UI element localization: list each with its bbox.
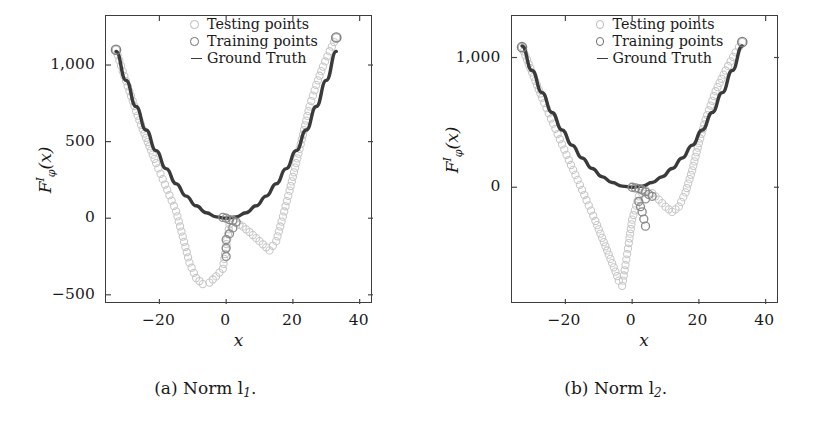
x-tick-label: 20: [687, 311, 707, 329]
y-axis-label-superscript: I: [441, 157, 454, 161]
caption-a-text: (a) Norm l: [154, 378, 243, 398]
testing-points-series: [518, 38, 745, 289]
caption-a-subscript: 1: [243, 386, 251, 400]
y-axis-label-argument: (x): [35, 147, 55, 170]
legend-label-training: Training points: [612, 32, 724, 51]
y-axis-label-argument: (x): [441, 127, 461, 150]
panel-a-norm-l1: 1,000 500 0 −500 −20 0 20 40 x FIφ(x) Te…: [0, 0, 411, 422]
y-axis-label-base: F: [35, 182, 55, 194]
caption-a: (a) Norm l1.: [0, 378, 411, 400]
legend-label-ground-truth: Ground Truth: [612, 49, 713, 68]
testing-point-marker-icon: [596, 20, 612, 29]
legend-label-training: Training points: [206, 32, 318, 51]
caption-b-period: .: [662, 378, 667, 398]
x-tick-label: 20: [282, 311, 302, 329]
legend-label-testing: Testing points: [206, 15, 309, 34]
training-point-marker-icon: [596, 37, 612, 46]
y-axis-label-subscript: φ: [45, 170, 58, 178]
y-axis-label-base: F: [441, 162, 461, 174]
testing-point-marker-icon: [190, 20, 206, 29]
testing-points-series: [112, 34, 339, 288]
legend-item-testing-points: Testing points: [596, 16, 724, 33]
legend-item-ground-truth: Ground Truth: [190, 50, 318, 67]
legend-item-training-points: Training points: [596, 33, 724, 50]
x-axis-label: x: [639, 330, 649, 350]
legend-item-ground-truth: Ground Truth: [596, 50, 724, 67]
y-axis-label-superscript: I: [34, 177, 47, 181]
x-tick-label: 40: [754, 311, 774, 329]
legend-label-ground-truth: Ground Truth: [206, 49, 307, 68]
panel-b-norm-l2: 1,000 0 −20 0 20 40 x FIφ(x) Testing poi…: [411, 0, 821, 422]
figure-two-panel-plots: 1,000 500 0 −500 −20 0 20 40 x FIφ(x) Te…: [0, 0, 821, 422]
ground-truth-curve: [116, 51, 336, 218]
legend-item-testing-points: Testing points: [190, 16, 318, 33]
legend-b: Testing points Training points Ground Tr…: [596, 16, 724, 67]
x-axis-label: x: [234, 330, 244, 350]
x-tick-label: 0: [220, 311, 230, 329]
y-tick-label: 0: [0, 208, 95, 226]
y-axis-label: FIφ(x): [441, 127, 465, 174]
training-point-marker-icon: [190, 37, 206, 46]
x-tick-label: −20: [142, 311, 175, 329]
y-tick-label: 0: [411, 177, 501, 195]
legend-label-testing: Testing points: [612, 15, 715, 34]
y-axis-label-subscript: φ: [451, 150, 464, 158]
ground-truth-line-icon: [190, 58, 206, 60]
x-tick-label: 40: [349, 311, 369, 329]
y-tick-label: 1,000: [0, 55, 95, 73]
ground-truth-line-icon: [596, 58, 612, 60]
y-tick-label: −500: [0, 285, 95, 303]
y-tick-label: 1,000: [411, 48, 501, 66]
caption-b-subscript: 2: [654, 386, 662, 400]
caption-a-period: .: [251, 378, 256, 398]
training-points-series: [219, 213, 240, 260]
x-tick-label: −20: [547, 311, 580, 329]
caption-b-text: (b) Norm l: [564, 378, 654, 398]
y-axis-label: FIφ(x): [34, 147, 58, 194]
caption-b: (b) Norm l2.: [411, 378, 821, 400]
legend-item-training-points: Training points: [190, 33, 318, 50]
legend-a: Testing points Training points Ground Tr…: [190, 16, 318, 67]
x-tick-label: 0: [626, 311, 636, 329]
